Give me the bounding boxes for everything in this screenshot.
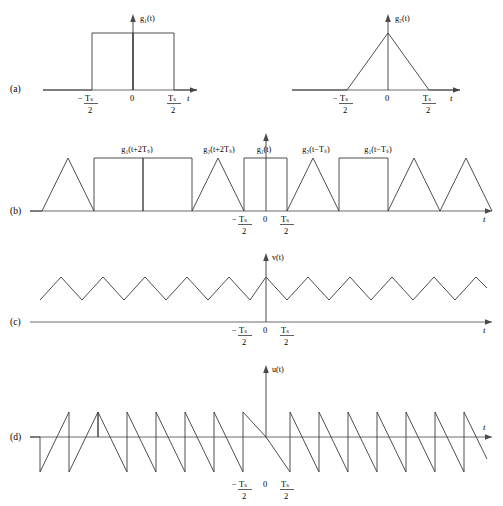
g1-tick-pos-numerator: Tₛ xyxy=(168,93,176,103)
panel-b-tick-neg-sign: − xyxy=(232,214,237,224)
label-g1-plus-2Ts: g₁(t+2Tₛ) xyxy=(121,145,153,154)
panel-c-tick-neg-numerator: Tₛ xyxy=(239,325,247,335)
panel-b-pulse-train-curve xyxy=(30,158,492,211)
panel-d-time-axis-arrowhead xyxy=(485,434,492,440)
panel-d-tick-negative: − Tₛ 2 xyxy=(232,479,252,501)
g1-tick-neg-sign: − xyxy=(78,93,83,103)
panel-b-tick-pos-numerator: Tₛ xyxy=(281,214,289,224)
g1-tick-neg-numerator: Tₛ xyxy=(85,93,93,103)
panel-a: (a) g₁(t) t 0 − Tₛ 2 Tₛ 2 xyxy=(10,14,460,115)
panel-b-tick-neg-numerator: Tₛ xyxy=(239,214,247,224)
g1-value-axis-arrowhead xyxy=(130,14,136,22)
panel-d: (d) u(t) t 0 − Tₛ 2 Tₛ 2 xyxy=(10,365,492,501)
plot-g2-pulse: g₂(t) t 0 − Tₛ 2 Tₛ 2 xyxy=(292,14,460,115)
panel-d-tick-neg-sign: − xyxy=(232,479,237,489)
g2-tick-neg-sign: − xyxy=(333,93,338,103)
panel-b-t-axis-label: t xyxy=(483,214,486,224)
label-g1-minus-Ts: g₁(t−Tₛ) xyxy=(364,145,392,154)
panel-b-label: (b) xyxy=(10,206,21,217)
panel-c-tick-pos-denominator: 2 xyxy=(284,337,288,347)
label-g2-plus-2Ts: g₂(t+2Tₛ) xyxy=(203,145,235,154)
panel-c-tick-negative: − Tₛ 2 xyxy=(232,325,252,347)
panel-d-tick-neg-denominator: 2 xyxy=(242,491,246,501)
g2-triangular-pulse-curve xyxy=(292,33,460,90)
signal-waveform-figure: (a) g₁(t) t 0 − Tₛ 2 Tₛ 2 xyxy=(0,0,503,506)
panel-b-tick-positive: Tₛ 2 xyxy=(280,214,294,236)
g1-tick-positive: Tₛ 2 xyxy=(167,93,181,115)
g1-tick-negative: − Tₛ 2 xyxy=(78,93,98,115)
panel-c-triangular-wave-curve xyxy=(40,277,487,300)
g1-rect-pulse-curve xyxy=(43,33,197,90)
panel-b-tick-negative: − Tₛ 2 xyxy=(232,214,252,236)
g2-tick-neg-denominator: 2 xyxy=(343,105,347,115)
panel-c-tick-positive: Tₛ 2 xyxy=(280,325,294,347)
plot-g1-pulse: g₁(t) t 0 − Tₛ 2 Tₛ 2 xyxy=(43,14,197,115)
g2-tick-positive: Tₛ 2 xyxy=(422,93,436,115)
panel-b: (b) g₁(t+2Tₛ) g₂(t+2Tₛ) g₁(t) g₂(t−Tₛ) g… xyxy=(10,133,492,236)
panel-c-tick-neg-sign: − xyxy=(232,325,237,335)
g2-t-axis-label: t xyxy=(450,93,453,103)
panel-d-tick-pos-numerator: Tₛ xyxy=(281,479,289,489)
panel-c-time-axis-arrowhead xyxy=(485,319,492,325)
panel-b-tick-pos-denominator: 2 xyxy=(284,226,288,236)
g2-tick-zero: 0 xyxy=(385,93,389,103)
panel-d-tick-neg-numerator: Tₛ xyxy=(239,479,247,489)
g2-tick-pos-denominator: 2 xyxy=(426,105,430,115)
g1-tick-zero: 0 xyxy=(130,93,134,103)
g2-value-axis-arrowhead xyxy=(385,14,391,22)
label-g2-minus-Ts: g₂(t−Tₛ) xyxy=(302,145,330,154)
panel-c-function-label: v(t) xyxy=(272,253,284,262)
panel-d-tick-pos-denominator: 2 xyxy=(284,491,288,501)
panel-c-label: (c) xyxy=(10,317,21,328)
g2-function-label: g₂(t) xyxy=(395,14,410,23)
panel-a-label: (a) xyxy=(10,84,21,95)
panel-b-tick-neg-denominator: 2 xyxy=(242,226,246,236)
g2-tick-pos-numerator: Tₛ xyxy=(423,93,431,103)
panel-c-tick-neg-denominator: 2 xyxy=(242,337,246,347)
panel-d-function-label: u(t) xyxy=(272,365,284,374)
panel-b-tick-zero: 0 xyxy=(263,214,267,224)
g1-function-label: g₁(t) xyxy=(140,14,155,23)
panel-d-label: (d) xyxy=(10,432,21,443)
label-g1-t: g₁(t) xyxy=(257,145,272,154)
panel-b-value-axis-arrowhead xyxy=(263,133,269,141)
g2-tick-neg-numerator: Tₛ xyxy=(340,93,348,103)
panel-c: (c) v(t) t 0 − Tₛ 2 Tₛ 2 xyxy=(10,253,492,347)
panel-d-value-axis-arrowhead xyxy=(263,365,269,373)
panel-c-value-axis-arrowhead xyxy=(263,253,269,261)
panel-c-tick-zero: 0 xyxy=(263,325,267,335)
g1-tick-pos-denominator: 2 xyxy=(171,105,175,115)
panel-c-tick-pos-numerator: Tₛ xyxy=(281,325,289,335)
panel-d-tick-positive: Tₛ 2 xyxy=(280,479,294,501)
panel-d-tick-zero: 0 xyxy=(263,479,267,489)
g2-tick-negative: − Tₛ 2 xyxy=(333,93,353,115)
panel-d-sawtooth-curve xyxy=(30,412,487,472)
g1-t-axis-label: t xyxy=(187,93,190,103)
panel-c-t-axis-label: t xyxy=(483,325,486,335)
panel-d-t-axis-label: t xyxy=(483,422,486,432)
g1-tick-neg-denominator: 2 xyxy=(88,105,92,115)
